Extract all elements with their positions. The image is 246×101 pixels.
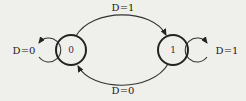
transition-s1-to-s0 [78,64,168,85]
edge-s0-s1-label: D=1 [112,2,135,13]
state-0-label: 0 [68,45,74,55]
edge-s1-s0-label: D=0 [112,85,135,96]
loop-s1-label: D=1 [216,45,239,56]
transition-s0-to-s1 [76,15,166,36]
state-diagram: 0 1 D=0 D=1 D=1 D=0 [0,0,246,101]
state-1-label: 1 [170,45,176,55]
loop-s0-label: D=0 [13,45,36,56]
